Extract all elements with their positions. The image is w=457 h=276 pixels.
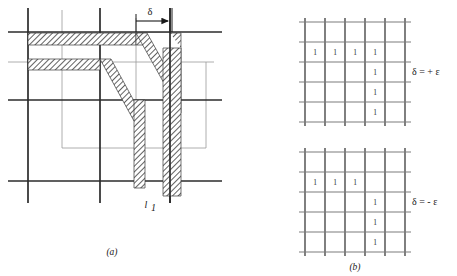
band-vertical-right	[163, 48, 181, 196]
figure-root: δ l 1 (a)	[0, 0, 457, 276]
grid-minus-cell-1-0: 1	[313, 178, 317, 187]
grid-minus-cell-2-3: 1	[373, 198, 377, 207]
figure-svg: δ l 1 (a)	[0, 0, 457, 276]
grid-minus-cell-1-1: 1	[333, 178, 337, 187]
band-lower-h-segment	[28, 59, 100, 70]
delta-arrow-label: δ	[148, 6, 153, 17]
band-vertical-left	[134, 100, 145, 188]
grid-plus-cell-1-2: 1	[353, 48, 357, 57]
panel-b-caption: (b)	[349, 262, 360, 273]
grid-plus-label: δ = + ε	[412, 66, 440, 77]
grid-plus-cell-1-3: 1	[373, 48, 377, 57]
grid-minus-cell-1-2: 1	[353, 178, 357, 187]
hatched-band-vertical-left	[134, 100, 145, 188]
grid-plus-cell-4-3: 1	[373, 108, 377, 117]
panel-a-caption: (a)	[106, 247, 117, 258]
grid-minus-label: δ = - ε	[412, 196, 437, 207]
grid-plus-cell-1-0: 1	[313, 48, 317, 57]
grid-plus-cell-1-1: 1	[333, 48, 337, 57]
grid-plus-cell-2-3: 1	[373, 68, 377, 77]
hatched-band-vertical-right	[163, 48, 181, 196]
l1-label-subscript: 1	[151, 202, 156, 213]
band-upper-h-segment	[28, 33, 136, 45]
hatched-band-lower	[28, 59, 100, 70]
grid-minus-cell-4-3: 1	[373, 238, 377, 247]
l1-label: l	[145, 199, 148, 210]
grid-plus-cell-3-3: 1	[373, 88, 377, 97]
grid-minus-cell-3-3: 1	[373, 218, 377, 227]
